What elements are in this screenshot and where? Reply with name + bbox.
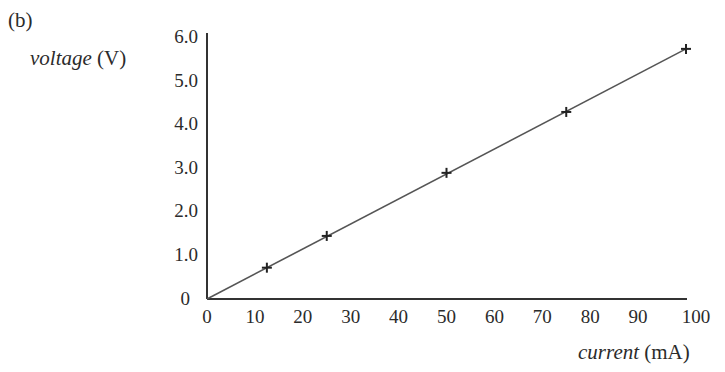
data-point-marker <box>322 231 332 241</box>
plot-area <box>0 0 725 372</box>
data-point-marker <box>262 263 272 273</box>
data-point-marker <box>561 107 571 117</box>
data-point-marker <box>681 44 691 54</box>
